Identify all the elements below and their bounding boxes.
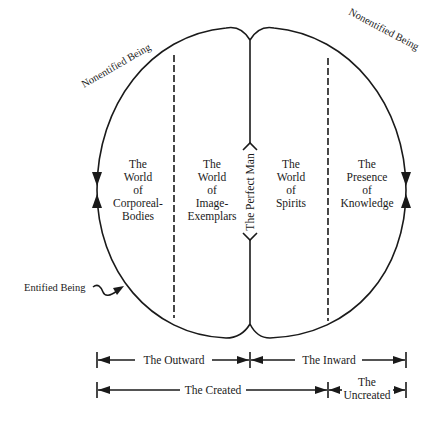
arrow-left-icon [98, 356, 110, 364]
region-line: of [286, 184, 296, 196]
region-line: The [282, 158, 300, 170]
cosmology-diagram: Nonentified Being Nonentified Being Enti… [0, 0, 446, 421]
region-line: of [207, 184, 217, 196]
region-line: of [133, 184, 143, 196]
region-line: Bodies [122, 210, 154, 222]
region-line: Exemplars [187, 210, 237, 223]
arrow-up-icon [401, 194, 411, 208]
region-line: World [124, 171, 153, 183]
region-line: Knowledge [340, 197, 393, 210]
chevron-up-icon [243, 143, 257, 150]
arrow-left-icon [98, 386, 110, 394]
arrow-right-icon [237, 356, 249, 364]
span-created-label: The Created [185, 384, 242, 396]
arrow-left-icon [329, 386, 340, 394]
chevron-down-icon [243, 233, 257, 240]
arrow-left-icon [251, 356, 263, 364]
region-image-exemplars: The World of Image- Exemplars [187, 158, 237, 223]
entified-being-label: Entified Being [24, 282, 86, 293]
nonentified-being-left-label: Nonentified Being [80, 41, 154, 90]
nonentified-being-right-label: Nonentified Being [347, 6, 422, 53]
span-row-created-uncreated: The Created The Uncreated [97, 376, 406, 401]
region-line: World [277, 171, 306, 183]
arrow-up-icon [92, 194, 102, 208]
arrow-down-icon [92, 172, 102, 186]
pointer-squiggle [93, 285, 117, 295]
region-line: Presence [347, 171, 388, 183]
span-outward-label: The Outward [144, 354, 205, 366]
region-corporeal-bodies: The World of Corporeal- Bodies [113, 158, 163, 222]
region-line: World [198, 171, 227, 183]
region-line: Spirits [276, 197, 307, 210]
span-uncreated-label-line2: Uncreated [343, 389, 390, 401]
region-line: of [362, 184, 372, 196]
arrow-down-icon [401, 172, 411, 186]
arrow-right-icon [394, 386, 405, 394]
perfect-man-label: The Perfect Man [244, 153, 256, 231]
arrow-right-icon [393, 356, 405, 364]
arrow-right-icon [315, 386, 327, 394]
region-line: The [129, 158, 147, 170]
region-presence-of-knowledge: The Presence of Knowledge [340, 158, 393, 210]
span-row-outward-inward: The Outward The Inward [97, 352, 406, 368]
region-spirits: The World of Spirits [276, 158, 307, 210]
region-line: Image- [196, 197, 229, 210]
span-uncreated-label-line1: The [358, 376, 376, 388]
region-line: Corporeal- [113, 197, 163, 210]
region-line: The [203, 158, 221, 170]
region-line: The [358, 158, 376, 170]
span-inward-label: The Inward [302, 354, 356, 366]
pointer-arrow-icon [113, 286, 124, 295]
